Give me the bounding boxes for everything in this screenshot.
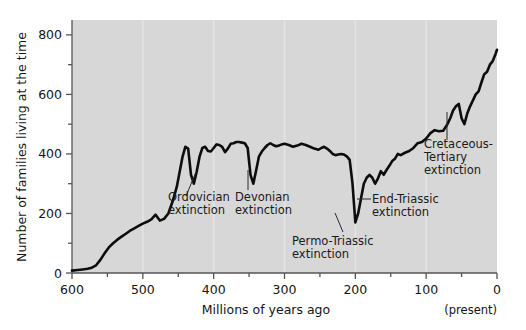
- x-tick-label-100: 100: [414, 282, 438, 297]
- annotation-devonian: Devonian extinction: [235, 190, 292, 217]
- annotation-devonian-line-1: extinction: [235, 203, 292, 217]
- extinction-line-chart: 0200400600800 6005004003002001000 Number…: [0, 0, 526, 330]
- x-axis-ticks: [72, 273, 497, 279]
- y-tick-label-0: 0: [54, 266, 62, 281]
- annotation-end-triassic-line-0: End-Triassic: [372, 192, 439, 206]
- x-tick-label-200: 200: [343, 282, 367, 297]
- chart-figure: 0200400600800 6005004003002001000 Number…: [0, 0, 526, 330]
- annotation-cretaceous-tertiary-line-2: extinction: [424, 163, 481, 177]
- present-label: (present): [444, 303, 497, 317]
- annotation-permo-triassic-line-0: Permo-Triassic: [292, 234, 373, 248]
- annotation-end-triassic-line-1: extinction: [372, 205, 429, 219]
- x-tick-label-400: 400: [202, 282, 226, 297]
- annotation-ordovician-line-1: extinction: [168, 203, 225, 217]
- y-axis-ticks: [66, 35, 72, 273]
- y-tick-label-800: 800: [38, 27, 62, 42]
- annotation-cretaceous-tertiary-line-0: Cretaceous-: [424, 137, 493, 151]
- y-tick-label-200: 200: [38, 206, 62, 221]
- annotation-ordovician-line-0: Ordovician: [168, 190, 230, 204]
- y-tick-label-600: 600: [38, 87, 62, 102]
- x-tick-label-300: 300: [273, 282, 297, 297]
- y-axis-tick-labels: 0200400600800: [38, 27, 62, 280]
- x-axis-tick-labels: 6005004003002001000: [60, 282, 501, 297]
- y-tick-label-400: 400: [38, 146, 62, 161]
- y-axis-title: Number of families living at the time: [14, 32, 29, 262]
- annotation-ordovician: Ordovician extinction: [168, 190, 230, 217]
- x-axis-title: Millions of years ago: [202, 302, 330, 317]
- x-tick-label-600: 600: [60, 282, 84, 297]
- annotation-devonian-line-0: Devonian: [235, 190, 290, 204]
- annotation-permo-triassic-line-1: extinction: [292, 247, 349, 261]
- annotation-end-triassic: End-Triassic extinction: [372, 192, 439, 219]
- x-tick-label-0: 0: [493, 282, 501, 297]
- annotation-cretaceous-tertiary-line-1: Tertiary: [423, 150, 467, 164]
- x-tick-label-500: 500: [131, 282, 155, 297]
